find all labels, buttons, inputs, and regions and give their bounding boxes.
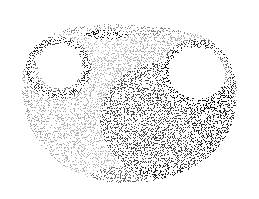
left-handle-hole	[39, 45, 81, 87]
stippled-vase-illustration	[0, 0, 259, 199]
vase-body	[0, 0, 259, 199]
illustration-canvas	[0, 0, 259, 199]
